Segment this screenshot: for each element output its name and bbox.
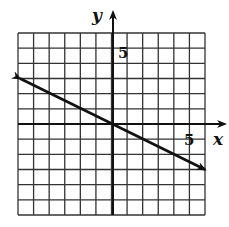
x-axis-label: x — [212, 129, 224, 149]
y-tick-label-5: 5 — [118, 44, 128, 62]
x-tick-label-5: 5 — [184, 131, 194, 149]
y-axis-label: y — [91, 5, 103, 25]
coordinate-graph: y x 5 5 — [0, 0, 229, 227]
